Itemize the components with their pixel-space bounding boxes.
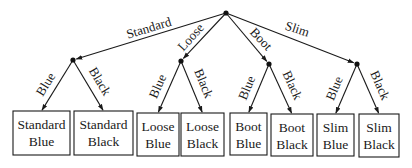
node-boot <box>266 61 271 66</box>
leaf-line1: Slim <box>323 120 349 135</box>
tree-diagram: StandardBlueBlackLooseBlueBlackBootBlueB… <box>0 0 412 168</box>
branch-label-standard-blue: Blue <box>33 70 59 99</box>
leaf-line2: Blue <box>145 136 171 151</box>
leaf-line1: Standard <box>18 117 66 132</box>
leaf-line2: Blue <box>236 136 262 151</box>
leaf-line1: Slim <box>366 120 392 135</box>
node-loose <box>178 58 183 63</box>
leaf-line1: Loose <box>186 119 219 134</box>
branch-label-boot-black: Black <box>279 68 306 102</box>
branch-label-slim-black: Black <box>367 68 393 102</box>
leaf-loose-blue: LooseBlue <box>137 113 179 156</box>
leaf-line2: Black <box>187 136 219 151</box>
leaf-line2: Blue <box>323 137 349 152</box>
leaf-line2: Black <box>88 134 120 149</box>
leaf-slim-black: SlimBlack <box>359 114 399 157</box>
branch-label-slim: Slim <box>283 18 311 40</box>
branch-label-loose: Loose <box>174 20 207 54</box>
leaf-line2: Blue <box>29 134 55 149</box>
leaf-line1: Standard <box>80 117 128 132</box>
leaf-line1: Loose <box>142 119 175 134</box>
leaf-standard-blue: StandardBlue <box>13 111 70 155</box>
leaf-boxes: StandardBlueStandardBlackLooseBlueLooseB… <box>13 111 399 157</box>
root-node <box>223 10 228 15</box>
branch-label-boot: Boot <box>247 25 275 54</box>
leaf-standard-black: StandardBlack <box>74 111 133 155</box>
leaf-boot-black: BootBlack <box>271 114 313 156</box>
leaf-boot-blue: BootBlue <box>230 113 267 155</box>
leaf-line1: Boot <box>279 120 306 135</box>
branch-label-standard: Standard <box>124 14 173 42</box>
leaf-loose-black: LooseBlack <box>181 113 224 156</box>
node-slim <box>354 61 359 66</box>
tree-nodes <box>70 10 359 66</box>
branch-label-standard-black: Black <box>86 64 115 98</box>
node-standard <box>70 57 75 62</box>
leaf-line2: Black <box>363 137 395 152</box>
leaf-line2: Black <box>276 137 308 152</box>
leaf-slim-blue: SlimBlue <box>317 114 354 156</box>
leaf-line1: Boot <box>235 119 262 134</box>
